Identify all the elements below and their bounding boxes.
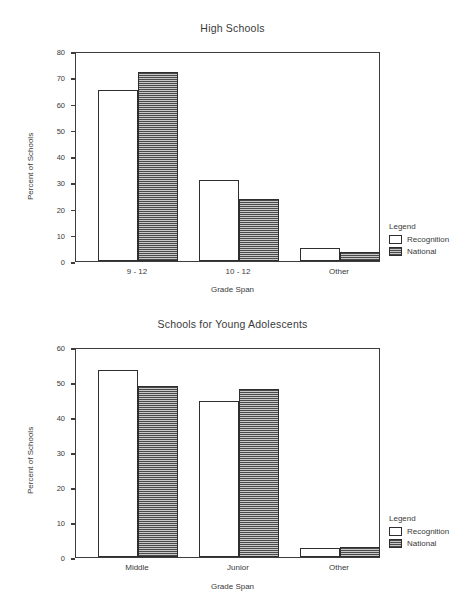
legend-label: National: [407, 539, 436, 548]
y-tick: 70: [71, 78, 75, 80]
y-tick-label: 30: [57, 449, 65, 458]
y-tick: 30: [71, 453, 75, 455]
y-tick: 0: [71, 558, 75, 560]
bar-national[interactable]: [340, 252, 380, 261]
y-tick: 50: [71, 383, 75, 385]
y-tick: 60: [71, 348, 75, 350]
y-tick-label: 40: [57, 414, 65, 423]
legend-swatch-national: [389, 539, 402, 548]
y-tick-label: 50: [57, 126, 65, 135]
legend-item-national[interactable]: National: [389, 247, 449, 256]
legend-swatch-recognition: [389, 527, 402, 536]
y-tick: 30: [71, 183, 75, 185]
legend-label: National: [407, 247, 436, 256]
y-tick: 20: [71, 210, 75, 212]
x-tick-label: Other: [329, 563, 349, 572]
y-tick: 60: [71, 105, 75, 107]
y-tick-label: 10: [57, 519, 65, 528]
bar-national[interactable]: [340, 547, 380, 558]
legend: Legend Recognition National: [389, 514, 449, 551]
y-tick: 10: [71, 236, 75, 238]
bar-recognition[interactable]: [98, 370, 138, 557]
x-tick-label: Middle: [125, 563, 149, 572]
y-tick: 0: [71, 262, 75, 264]
y-tick-label: 20: [57, 205, 65, 214]
bar-group-container: [76, 53, 378, 261]
bar-recognition[interactable]: [199, 180, 239, 261]
legend-swatch-national: [389, 247, 402, 256]
bar-national[interactable]: [138, 72, 178, 261]
x-axis-title: Grade Span: [0, 582, 465, 591]
legend-label: Recognition: [407, 527, 449, 536]
y-tick-label: 60: [57, 344, 65, 353]
legend-item-recognition[interactable]: Recognition: [389, 527, 449, 536]
x-axis: [75, 557, 379, 558]
bar-national[interactable]: [239, 389, 279, 557]
bar-national[interactable]: [239, 199, 279, 261]
x-tick-label: 9 - 12: [127, 267, 147, 276]
x-tick-label: Other: [329, 267, 349, 276]
y-tick-label: 50: [57, 379, 65, 388]
y-tick-label: 80: [57, 48, 65, 57]
y-tick-label: 20: [57, 484, 65, 493]
y-tick-label: 60: [57, 100, 65, 109]
y-tick: 40: [71, 418, 75, 420]
x-axis-title: Grade Span: [0, 285, 465, 294]
legend: Legend Recognition National: [389, 222, 449, 259]
x-axis: [75, 261, 379, 262]
bar-recognition[interactable]: [98, 90, 138, 261]
y-tick-label: 10: [57, 231, 65, 240]
y-tick-label: 30: [57, 179, 65, 188]
y-tick: 40: [71, 157, 75, 159]
legend-item-recognition[interactable]: Recognition: [389, 235, 449, 244]
bar-group-container: [76, 349, 378, 557]
legend-item-national[interactable]: National: [389, 539, 449, 548]
chart-young-adolescents: Schools for Young Adolescents Percent of…: [0, 298, 465, 596]
y-tick: 10: [71, 523, 75, 525]
legend-title: Legend: [389, 222, 449, 231]
chart-title: High Schools: [0, 22, 465, 34]
legend-title: Legend: [389, 514, 449, 523]
bar-recognition[interactable]: [300, 548, 340, 557]
bar-national[interactable]: [138, 386, 178, 558]
y-tick-label: 0: [61, 554, 65, 563]
x-tick-label: Junior: [227, 563, 249, 572]
y-tick: 20: [71, 488, 75, 490]
bar-recognition[interactable]: [300, 248, 340, 261]
y-tick: 50: [71, 131, 75, 133]
legend-swatch-recognition: [389, 235, 402, 244]
y-axis-title: Percent of Schools: [26, 133, 35, 200]
x-tick-label: 10 - 12: [226, 267, 251, 276]
plot-area: 0 10 20 30 40 50 60: [75, 348, 380, 558]
y-tick: 80: [71, 52, 75, 54]
y-tick-label: 0: [61, 258, 65, 267]
bar-recognition[interactable]: [199, 401, 239, 557]
legend-label: Recognition: [407, 235, 449, 244]
chart-title: Schools for Young Adolescents: [0, 318, 465, 330]
y-tick-label: 70: [57, 74, 65, 83]
chart-high-schools: High Schools Percent of Schools 0 10 20 …: [0, 0, 465, 298]
y-tick-label: 40: [57, 153, 65, 162]
plot-area: 0 10 20 30 40 50 60 70 80: [75, 52, 380, 262]
y-axis-title: Percent of Schools: [26, 427, 35, 494]
